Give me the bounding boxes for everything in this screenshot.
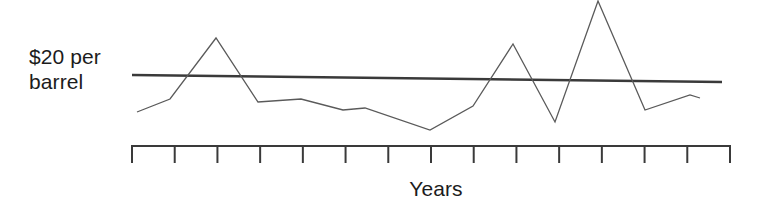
x-axis-tick-group	[132, 146, 730, 163]
data-series-oil-price	[137, 1, 700, 130]
x-axis-label: Years	[336, 177, 536, 202]
y-axis-label: $20 per barrel	[29, 45, 141, 95]
oil-price-line-chart: $20 per barrel Years	[0, 0, 762, 217]
reference-line-20-dollars	[132, 75, 722, 82]
